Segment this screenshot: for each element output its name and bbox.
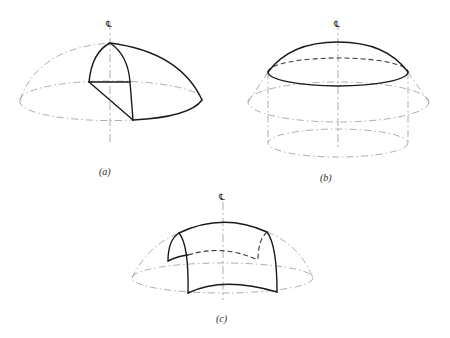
centerline-symbol-a: ℄ — [105, 19, 112, 29]
dome-base-ellipse-b — [248, 82, 429, 122]
shell-right-back-arc-c — [258, 232, 267, 260]
segment-outer-arc-a — [110, 43, 202, 100]
shell-left-front-edge-c — [179, 233, 188, 293]
segment-base-arc-a — [133, 100, 202, 120]
centerline-symbol-b: ℄ — [333, 19, 340, 29]
panel-b: ℄ (b) — [248, 19, 429, 184]
panel-label-b: (b) — [320, 172, 332, 184]
shell-right-front-edge-c — [267, 232, 277, 292]
dome-side-left-b — [248, 72, 268, 102]
segment-diagonal-a — [89, 82, 133, 120]
shell-inner-left-c — [168, 255, 188, 261]
dome-side-right-b — [408, 72, 429, 102]
base-ellipse-front-a — [20, 100, 133, 121]
panel-label-a: (a) — [99, 166, 111, 178]
base-ellipse-back-a — [20, 81, 202, 100]
shell-bottom-arc-c — [188, 284, 277, 293]
dome-outline-right-c — [267, 232, 313, 278]
dome-base-ellipse-c — [132, 263, 313, 293]
segment-left-arc-a — [89, 43, 110, 82]
dome-outline-a — [20, 43, 110, 100]
panel-label-c: (c) — [216, 313, 228, 325]
panel-a: ℄ (a) — [20, 19, 202, 178]
panel-c: ℄ (c) — [132, 192, 313, 325]
cylinder-bottom-ellipse-b — [268, 129, 408, 157]
centerline-symbol-c: ℄ — [218, 192, 225, 202]
diagram-canvas: ℄ (a) ℄ (b) ℄ — [0, 0, 450, 338]
